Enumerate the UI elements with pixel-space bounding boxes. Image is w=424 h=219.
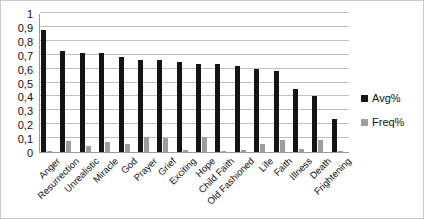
gridline [40, 12, 349, 13]
y-axis-tick-label: 0,7 [18, 50, 33, 61]
bar-group [79, 14, 98, 152]
bar-freq [125, 144, 130, 152]
bar-group [137, 14, 156, 152]
bar-freq [338, 151, 343, 152]
bar-freq [163, 138, 168, 152]
bar-avg [235, 66, 240, 152]
bar-avg [80, 53, 85, 152]
bar-freq [183, 150, 188, 152]
bar-avg [215, 64, 220, 152]
bar-group [273, 14, 292, 152]
bar-avg [119, 57, 124, 152]
y-axis-tick-label: 0 [27, 148, 33, 159]
bar-freq [144, 137, 149, 152]
chart-legend: Avg%Freq% [361, 93, 404, 141]
bar-freq [202, 137, 207, 152]
bar-group [118, 14, 137, 152]
bar-avg [274, 71, 279, 152]
bar-avg [293, 89, 298, 152]
bar-avg [41, 30, 46, 152]
bar-freq [260, 144, 265, 152]
chart-container: 00,10,20,30,40,50,60,70,80,91 AngerResur… [0, 0, 424, 219]
legend-label: Freq% [372, 117, 404, 128]
y-axis: 00,10,20,30,40,50,60,70,80,91 [1, 14, 36, 153]
bar-group [234, 14, 253, 152]
bar-freq [280, 140, 285, 152]
bar-group [195, 14, 214, 152]
bar-group [40, 14, 59, 152]
bar-group [292, 14, 311, 152]
bar-group [214, 14, 233, 152]
y-axis-tick-label: 0,8 [18, 36, 33, 47]
bar-avg [196, 64, 201, 152]
bar-avg [312, 96, 317, 152]
bar-freq [86, 146, 91, 152]
plot-area [39, 14, 349, 153]
y-axis-tick-label: 0,9 [18, 22, 33, 33]
bar-avg [177, 62, 182, 152]
bar-freq [221, 151, 226, 152]
y-axis-tick-label: 0,4 [18, 92, 33, 103]
legend-label: Avg% [372, 93, 401, 104]
bar-avg [254, 69, 259, 152]
bar-group [59, 14, 78, 152]
legend-swatch-icon [361, 95, 368, 102]
y-axis-tick-label: 1 [27, 9, 33, 20]
bar-avg [99, 53, 104, 152]
legend-entry-avg: Avg% [361, 93, 404, 104]
y-axis-tick-label: 0,1 [18, 134, 33, 145]
y-axis-tick-label: 0,6 [18, 64, 33, 75]
x-axis: AngerResurrectionUnrealisticMiracleGodPr… [39, 153, 349, 219]
bar-group [331, 14, 350, 152]
bar-freq [105, 142, 110, 152]
bar-freq [299, 149, 304, 152]
bars-layer [40, 14, 349, 152]
bar-freq [66, 141, 71, 152]
bar-avg [138, 60, 143, 152]
y-axis-tick-label: 0,2 [18, 120, 33, 131]
bar-group [156, 14, 175, 152]
y-axis-tick-label: 0,3 [18, 106, 33, 117]
bar-freq [318, 140, 323, 152]
bar-avg [332, 119, 337, 152]
bar-avg [157, 60, 162, 152]
bar-freq [47, 151, 52, 152]
bar-group [176, 14, 195, 152]
bar-avg [60, 51, 65, 152]
y-axis-tick-label: 0,5 [18, 78, 33, 89]
legend-entry-freq: Freq% [361, 117, 404, 128]
legend-swatch-icon [361, 119, 368, 126]
bar-group [98, 14, 117, 152]
bar-freq [241, 150, 246, 152]
bar-group [253, 14, 272, 152]
bar-group [311, 14, 330, 152]
